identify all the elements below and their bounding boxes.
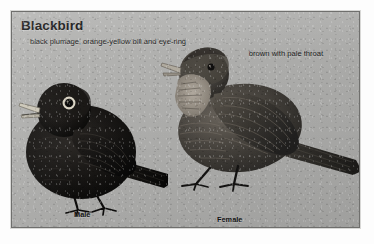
male-blackbird-illustration [18, 70, 168, 220]
page-title: Blackbird [21, 18, 83, 33]
female-blackbird-illustration [148, 32, 360, 222]
female-eye [208, 64, 215, 71]
caption-male: black plumage, orange-yellow bill and ey… [26, 37, 190, 48]
male-bill-upper [19, 103, 40, 113]
label-male: Male [74, 210, 90, 219]
label-female: Female [217, 215, 242, 224]
illustration-plate: Blackbird black plumage, orange-yellow b… [11, 11, 360, 228]
female-bill-upper [161, 63, 181, 73]
caption-female: brown with pale throat [224, 49, 348, 60]
page-background: Blackbird black plumage, orange-yellow b… [0, 0, 374, 244]
female-feet [182, 184, 248, 191]
male-eye [66, 100, 73, 107]
female-bill-lower [163, 73, 181, 76]
